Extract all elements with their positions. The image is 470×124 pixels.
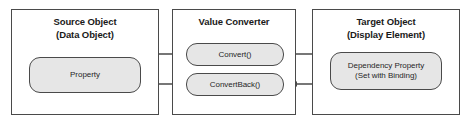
dependency-property-label-line2: (Set with Binding) [348,71,424,81]
value-converter-title: Value Converter [173,16,295,29]
source-object-title-line1: Source Object [53,16,116,27]
dependency-property-node: Dependency Property (Set with Binding) [330,52,442,90]
target-object-title: Target Object (Display Element) [313,16,459,41]
source-object-title-line2: (Data Object) [12,29,158,42]
convert-method-label: Convert() [219,50,252,60]
value-converter-title-line1: Value Converter [199,16,270,27]
convert-back-method-node: ConvertBack() [186,73,284,96]
target-object-title-line1: Target Object [356,16,415,27]
convert-method-node: Convert() [186,43,284,66]
source-object-title: Source Object (Data Object) [12,16,158,41]
convert-back-method-label: ConvertBack() [210,80,260,90]
value-converter-diagram: Source Object (Data Object) Value Conver… [0,0,470,124]
dependency-property-label-line1: Dependency Property [348,61,424,70]
dependency-property-label: Dependency Property (Set with Binding) [348,61,424,81]
property-node: Property [29,57,141,93]
target-object-title-line2: (Display Element) [313,29,459,42]
property-node-label: Property [70,70,100,80]
